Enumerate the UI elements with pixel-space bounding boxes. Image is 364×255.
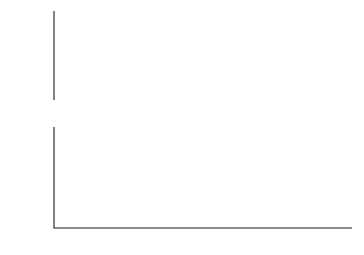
time-active-plot xyxy=(0,118,364,243)
heart-rate-panel xyxy=(0,0,364,118)
figure-container xyxy=(0,0,364,255)
heart-rate-plot xyxy=(0,0,364,118)
time-active-panel xyxy=(0,118,364,255)
